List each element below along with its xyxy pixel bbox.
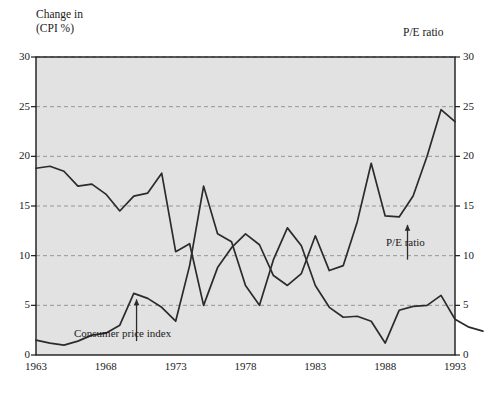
y-axis-tick-right: 20: [463, 149, 489, 161]
y-axis-tick-left: 20: [4, 149, 30, 161]
y-axis-tick-left: 30: [4, 50, 30, 62]
x-axis-tick: 1993: [434, 360, 476, 372]
x-axis-tick: 1973: [155, 360, 197, 372]
y-axis-tick-left: 0: [4, 348, 30, 360]
y-axis-tick-right: 10: [463, 249, 489, 261]
pe-annotation-label: P/E ratio: [386, 236, 425, 248]
y-axis-tick-right: 15: [463, 199, 489, 211]
x-axis-tick: 1978: [225, 360, 267, 372]
plot-background: [36, 57, 455, 355]
y-axis-tick-right: 25: [463, 100, 489, 112]
y-axis-tick-left: 15: [4, 199, 30, 211]
x-axis-tick: 1983: [294, 360, 336, 372]
x-axis-tick: 1963: [15, 360, 57, 372]
y-axis-tick-left: 25: [4, 100, 30, 112]
y-axis-tick-right: 5: [463, 298, 489, 310]
chart-container: Change in (CPI %) P/E ratio 005510101515…: [0, 0, 493, 393]
y-axis-tick-right: 0: [463, 348, 489, 360]
x-axis-tick: 1988: [364, 360, 406, 372]
y-axis-tick-left: 5: [4, 298, 30, 310]
x-axis-tick: 1968: [85, 360, 127, 372]
y-axis-tick-left: 10: [4, 249, 30, 261]
cpi-annotation-label: Consumer price index: [74, 327, 171, 339]
y-axis-tick-right: 30: [463, 50, 489, 62]
